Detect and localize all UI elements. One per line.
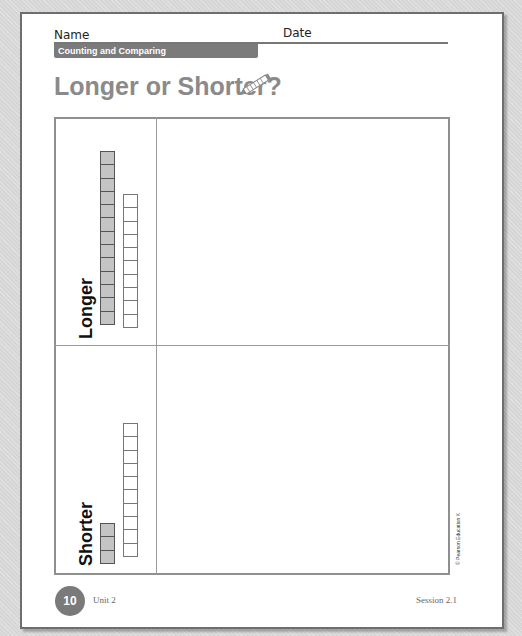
white-cube	[123, 274, 138, 288]
copyright-text: © Pearson Education K	[455, 513, 461, 565]
gray-cube	[100, 231, 115, 245]
gray-cube	[100, 271, 115, 285]
name-label: Name	[54, 28, 89, 42]
gray-cube	[100, 191, 115, 205]
white-cube	[123, 529, 138, 543]
gray-cube	[100, 297, 115, 311]
gray-cube	[100, 523, 115, 537]
longer-white-cube-tower	[123, 195, 138, 328]
white-cube	[123, 314, 138, 328]
white-cube	[123, 221, 138, 235]
page-number-badge: 10	[55, 586, 85, 616]
gray-cube	[100, 244, 115, 258]
white-cube	[123, 450, 138, 464]
shorter-drawing-area[interactable]	[158, 347, 448, 573]
gray-cube	[100, 311, 115, 325]
table-column-divider	[156, 117, 157, 575]
white-cube	[123, 543, 138, 557]
gray-cube	[100, 217, 115, 231]
gray-cube	[100, 204, 115, 218]
white-cube	[123, 194, 138, 208]
gray-cube	[100, 550, 115, 564]
white-cube	[123, 260, 138, 274]
white-cube	[123, 207, 138, 221]
white-cube	[123, 423, 138, 437]
white-cube	[123, 463, 138, 477]
unit-band: Counting and Comparing	[54, 44, 258, 58]
gray-cube	[100, 257, 115, 271]
longer-drawing-area[interactable]	[158, 119, 448, 344]
gray-cube	[100, 164, 115, 178]
table-row-divider	[54, 345, 450, 346]
gray-cube	[100, 151, 115, 165]
white-cube	[123, 503, 138, 517]
unit-label: Unit 2	[93, 595, 116, 605]
longer-gray-cube-tower	[100, 152, 115, 325]
white-cube	[123, 287, 138, 301]
pencil-icon	[235, 73, 275, 97]
shorter-gray-cube-tower	[100, 524, 115, 564]
gray-cube	[100, 178, 115, 192]
white-cube	[123, 489, 138, 503]
white-cube	[123, 234, 138, 248]
white-cube	[123, 300, 138, 314]
date-label: Date	[283, 26, 312, 40]
gray-cube	[100, 284, 115, 298]
shorter-label: Shorter	[76, 502, 97, 566]
white-cube	[123, 476, 138, 490]
shorter-white-cube-tower	[123, 424, 138, 557]
session-label: Session 2.1	[416, 595, 457, 605]
white-cube	[123, 247, 138, 261]
white-cube	[123, 516, 138, 530]
gray-cube	[100, 536, 115, 550]
white-cube	[123, 436, 138, 450]
longer-label: Longer	[76, 278, 97, 339]
